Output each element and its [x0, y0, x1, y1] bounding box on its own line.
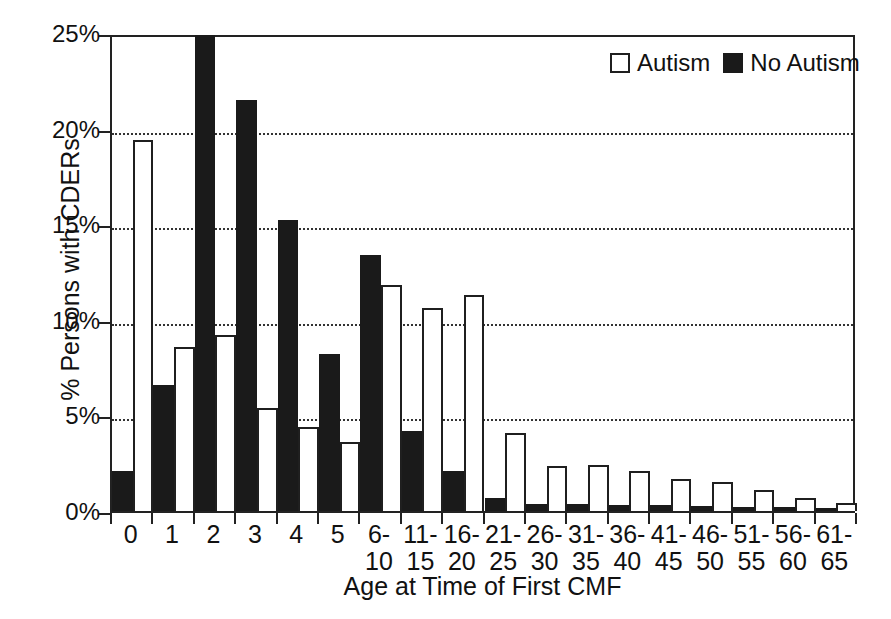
y-tick-label: 10% [8, 309, 100, 333]
bar-category-group [112, 37, 153, 511]
bar-no-autism[interactable] [485, 498, 506, 511]
bar-no-autism[interactable] [691, 506, 712, 511]
legend-item[interactable]: No Autism [723, 49, 859, 77]
bar-no-autism[interactable] [195, 35, 216, 511]
bar-category-group [236, 37, 277, 511]
bar-category-group [360, 37, 401, 511]
chart-legend: AutismNo Autism [610, 49, 860, 77]
legend-swatch-open-icon [610, 53, 630, 73]
x-tick-label: 61- 65 [814, 521, 855, 575]
x-tick-label: 21- 25 [483, 521, 524, 575]
bar-autism[interactable] [712, 482, 733, 511]
bar-no-autism[interactable] [774, 507, 795, 511]
y-tick-mark [99, 131, 110, 133]
x-tick-label: 1 [151, 521, 192, 548]
legend-swatch-filled-icon [723, 53, 743, 73]
bar-no-autism[interactable] [319, 354, 340, 511]
bar-autism[interactable] [133, 140, 154, 511]
x-tick-label: 2 [193, 521, 234, 548]
bar-category-group [774, 37, 815, 511]
bar-autism[interactable] [257, 408, 278, 511]
y-tick-mark [99, 226, 110, 228]
bar-no-autism[interactable] [526, 504, 547, 511]
bar-no-autism[interactable] [112, 471, 133, 511]
x-tick-label: 4 [276, 521, 317, 548]
x-tick-label: 36- 40 [607, 521, 648, 575]
bar-no-autism[interactable] [733, 507, 754, 511]
legend-label: No Autism [750, 49, 859, 77]
x-axis-title: Age at Time of First CMF [110, 572, 855, 601]
y-tick-label: 15% [8, 213, 100, 237]
bar-category-group [650, 37, 691, 511]
bar-no-autism[interactable] [443, 471, 464, 511]
bar-category-group [443, 37, 484, 511]
bar-no-autism[interactable] [278, 220, 299, 511]
bar-autism[interactable] [464, 295, 485, 511]
y-tick-mark [99, 417, 110, 419]
bar-no-autism[interactable] [360, 255, 381, 511]
bar-autism[interactable] [547, 466, 568, 511]
bar-category-group [691, 37, 732, 511]
bar-category-group [567, 37, 608, 511]
legend-item[interactable]: Autism [610, 49, 710, 77]
bar-autism[interactable] [505, 433, 526, 511]
bar-no-autism[interactable] [650, 505, 671, 511]
bar-category-group [526, 37, 567, 511]
bar-no-autism[interactable] [816, 508, 837, 511]
bar-category-group [319, 37, 360, 511]
bar-autism[interactable] [422, 308, 443, 511]
x-tick-label: 11- 15 [400, 521, 441, 575]
x-tick-label: 51- 55 [731, 521, 772, 575]
bar-no-autism[interactable] [153, 385, 174, 511]
bar-autism[interactable] [671, 479, 692, 512]
bar-category-group [733, 37, 774, 511]
y-tick-mark [99, 513, 110, 515]
bar-autism[interactable] [629, 471, 650, 511]
chart-figure: % Persons with CDERs 0%5%10%15%20%25% 01… [0, 0, 891, 619]
x-tick-label: 41- 45 [648, 521, 689, 575]
x-tick-label: 0 [110, 521, 151, 548]
x-tick-mark [855, 513, 857, 524]
bar-autism[interactable] [836, 503, 857, 511]
bar-category-group [816, 37, 857, 511]
y-tick-mark [99, 35, 110, 37]
y-tick-label: 20% [8, 118, 100, 142]
bar-category-group [485, 37, 526, 511]
bar-autism[interactable] [174, 347, 195, 511]
bar-autism[interactable] [381, 285, 402, 511]
x-tick-label: 3 [234, 521, 275, 548]
bar-autism[interactable] [340, 442, 361, 511]
bar-category-group [609, 37, 650, 511]
bar-category-group [278, 37, 319, 511]
bar-no-autism[interactable] [609, 505, 630, 511]
x-tick-label: 26- 30 [524, 521, 565, 575]
bar-category-group [402, 37, 443, 511]
y-tick-mark [99, 322, 110, 324]
y-tick-label: 0% [8, 500, 100, 524]
bar-autism[interactable] [754, 490, 775, 511]
bar-autism[interactable] [588, 465, 609, 511]
bar-autism[interactable] [215, 335, 236, 511]
y-tick-label: 5% [8, 404, 100, 428]
legend-label: Autism [637, 49, 710, 77]
bar-category-group [153, 37, 194, 511]
plot-area [110, 35, 855, 513]
bar-group [112, 37, 853, 511]
x-tick-label: 16- 20 [441, 521, 482, 575]
bar-no-autism[interactable] [402, 431, 423, 511]
bar-category-group [195, 37, 236, 511]
bar-autism[interactable] [795, 498, 816, 511]
x-tick-label: 6- 10 [358, 521, 399, 575]
y-tick-label: 25% [8, 22, 100, 46]
bar-autism[interactable] [298, 427, 319, 511]
x-tick-label: 31- 35 [565, 521, 606, 575]
bar-no-autism[interactable] [567, 504, 588, 511]
y-axis-title: % Persons with CDERs [56, 25, 85, 515]
x-tick-label: 5 [317, 521, 358, 548]
x-tick-label: 46- 50 [689, 521, 730, 575]
bar-no-autism[interactable] [236, 100, 257, 511]
x-tick-label: 56- 60 [772, 521, 813, 575]
